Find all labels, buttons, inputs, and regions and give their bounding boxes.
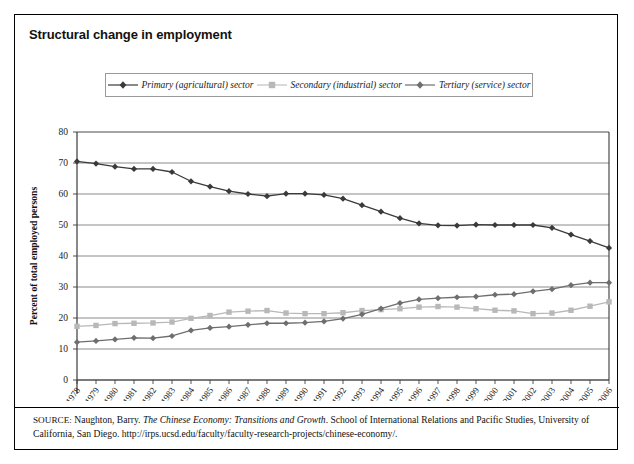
data-point-marker[interactable]: [454, 223, 460, 229]
data-point-marker[interactable]: [473, 294, 479, 300]
data-point-marker[interactable]: [340, 196, 346, 202]
data-point-marker[interactable]: [188, 178, 194, 184]
data-point-marker[interactable]: [264, 320, 270, 326]
data-point-marker[interactable]: [454, 304, 459, 309]
x-tick-label-2004: 2004: [558, 385, 577, 401]
data-point-marker[interactable]: [416, 220, 422, 226]
data-point-marker[interactable]: [473, 306, 478, 311]
data-point-marker[interactable]: [511, 291, 517, 297]
data-point-marker[interactable]: [530, 222, 536, 228]
legend-item-secondary[interactable]: Secondary (industrial) sector: [257, 80, 402, 90]
y-tick-label-50: 50: [59, 220, 69, 230]
x-tick-label-2006: 2006: [596, 385, 615, 401]
data-point-marker[interactable]: [473, 222, 479, 228]
series-secondary[interactable]: [74, 299, 611, 329]
data-point-marker[interactable]: [416, 296, 422, 302]
data-point-marker[interactable]: [150, 335, 156, 341]
data-point-marker[interactable]: [93, 338, 99, 344]
data-point-marker[interactable]: [378, 209, 384, 215]
data-point-marker[interactable]: [549, 225, 555, 231]
data-point-marker[interactable]: [587, 238, 593, 244]
legend-item-primary[interactable]: Primary (agricultural) sector: [108, 80, 254, 90]
data-point-marker[interactable]: [492, 222, 498, 228]
data-point-marker[interactable]: [188, 327, 194, 333]
data-point-marker[interactable]: [226, 309, 231, 314]
x-tick-label-1980: 1980: [102, 385, 121, 401]
data-point-marker[interactable]: [568, 308, 573, 313]
data-point-marker[interactable]: [511, 222, 517, 228]
data-point-marker[interactable]: [606, 245, 612, 251]
data-point-marker[interactable]: [74, 158, 80, 164]
data-point-marker[interactable]: [397, 215, 403, 221]
data-point-marker[interactable]: [302, 311, 307, 316]
data-point-marker[interactable]: [549, 310, 554, 315]
data-point-marker[interactable]: [340, 310, 345, 315]
data-point-marker[interactable]: [169, 333, 175, 339]
y-tick-label-0: 0: [63, 375, 68, 385]
data-point-marker[interactable]: [435, 295, 441, 301]
line-chart[interactable]: 0102030405060708019781979198019811982198…: [15, 101, 619, 401]
data-point-marker[interactable]: [606, 280, 612, 286]
data-point-marker[interactable]: [530, 311, 535, 316]
source-url[interactable]: http://irps.ucsd.edu/faculty/faculty-res…: [122, 428, 398, 439]
data-point-marker[interactable]: [169, 319, 174, 324]
data-point-marker[interactable]: [454, 294, 460, 300]
data-point-marker[interactable]: [283, 191, 289, 197]
data-point-marker[interactable]: [492, 292, 498, 298]
data-point-marker[interactable]: [530, 288, 536, 294]
data-point-marker[interactable]: [321, 318, 327, 324]
data-point-marker[interactable]: [150, 166, 156, 172]
y-tick-label-70: 70: [59, 158, 69, 168]
data-point-marker[interactable]: [131, 166, 137, 172]
data-point-marker[interactable]: [93, 323, 98, 328]
data-point-marker[interactable]: [74, 339, 80, 345]
data-point-marker[interactable]: [435, 304, 440, 309]
data-point-marker[interactable]: [435, 222, 441, 228]
data-point-marker[interactable]: [264, 308, 269, 313]
data-point-marker[interactable]: [245, 308, 250, 313]
data-point-marker[interactable]: [568, 232, 574, 238]
data-point-marker[interactable]: [74, 324, 79, 329]
data-point-marker[interactable]: [131, 321, 136, 326]
data-point-marker[interactable]: [416, 304, 421, 309]
source-author: Naughton, Barry.: [74, 414, 140, 425]
data-point-marker[interactable]: [112, 336, 118, 342]
data-point-marker[interactable]: [302, 191, 308, 197]
data-point-marker[interactable]: [397, 306, 402, 311]
data-point-marker[interactable]: [150, 320, 155, 325]
data-point-marker[interactable]: [587, 304, 592, 309]
data-point-marker[interactable]: [340, 316, 346, 322]
data-point-marker[interactable]: [492, 308, 497, 313]
data-point-marker[interactable]: [245, 191, 251, 197]
data-point-marker[interactable]: [188, 316, 193, 321]
data-point-marker[interactable]: [397, 300, 403, 306]
data-point-marker[interactable]: [131, 335, 137, 341]
data-point-marker[interactable]: [207, 313, 212, 318]
data-point-marker[interactable]: [226, 188, 232, 194]
y-tick-label-60: 60: [59, 189, 69, 199]
x-tick-label-1998: 1998: [444, 385, 463, 401]
data-point-marker[interactable]: [511, 308, 516, 313]
x-tick-label-1997: 1997: [425, 385, 444, 401]
data-point-marker[interactable]: [606, 299, 611, 304]
data-point-marker[interactable]: [207, 325, 213, 331]
data-point-marker[interactable]: [321, 311, 326, 316]
series-primary[interactable]: [74, 158, 612, 251]
data-point-marker[interactable]: [169, 169, 175, 175]
data-point-marker[interactable]: [283, 320, 289, 326]
legend-item-tertiary[interactable]: Tertiary (service) sector: [405, 80, 530, 90]
x-tick-label-1983: 1983: [159, 385, 178, 401]
data-point-marker[interactable]: [302, 320, 308, 326]
data-point-marker[interactable]: [321, 192, 327, 198]
data-point-marker[interactable]: [226, 324, 232, 330]
data-point-marker[interactable]: [283, 310, 288, 315]
data-point-marker[interactable]: [359, 202, 365, 208]
data-point-marker[interactable]: [112, 164, 118, 170]
data-point-marker[interactable]: [587, 280, 593, 286]
x-tick-label-1989: 1989: [273, 385, 292, 401]
data-point-marker[interactable]: [245, 322, 251, 328]
data-point-marker[interactable]: [207, 183, 213, 189]
y-tick-label-80: 80: [59, 127, 69, 137]
data-point-marker[interactable]: [93, 161, 99, 167]
data-point-marker[interactable]: [112, 321, 117, 326]
